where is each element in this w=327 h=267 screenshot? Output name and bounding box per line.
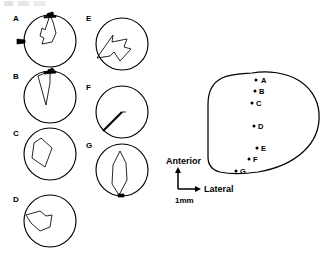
- site-dot-c: [251, 102, 254, 105]
- polar-panel-d-circle: [24, 195, 76, 247]
- polar-panel-g-label: G: [86, 141, 92, 150]
- site-marker-b: B: [254, 87, 266, 96]
- site-label-a: A: [261, 76, 267, 85]
- site-label-c: C: [256, 99, 262, 108]
- polar-panel-a-field-trace: [40, 15, 56, 44]
- polar-panel-b-field-trace: [38, 71, 50, 105]
- site-marker-d: D: [253, 122, 265, 131]
- polar-panel-e: E: [86, 14, 148, 70]
- polar-panel-g-circle: [96, 144, 148, 196]
- orientation-axes: Anterior Lateral 1mm: [166, 156, 234, 205]
- site-dot-d: [253, 125, 256, 128]
- figure-root: A B C: [0, 0, 327, 267]
- polar-panel-a-circle: [24, 15, 76, 67]
- polar-panel-g-bottom-marker: [118, 194, 124, 197]
- site-dot-b: [254, 90, 257, 93]
- polar-panel-b: B: [13, 68, 76, 123]
- site-label-f: F: [253, 155, 258, 164]
- site-marker-f: F: [248, 155, 259, 164]
- site-dot-f: [248, 158, 251, 161]
- polar-panel-f-field-trace: [103, 112, 122, 131]
- polar-panel-g-field-trace: [112, 151, 127, 195]
- site-dot-g: [235, 170, 238, 173]
- polar-panel-c: C: [13, 128, 76, 180]
- site-map: A B C D E F G: [208, 72, 319, 176]
- polar-panel-d-label: D: [13, 195, 19, 204]
- site-label-g: G: [240, 167, 246, 176]
- site-dot-a: [255, 79, 258, 82]
- polar-panel-f: F: [86, 83, 148, 138]
- site-marker-e: E: [256, 144, 267, 153]
- polar-panel-f-label: F: [86, 83, 91, 92]
- polar-panel-a: A: [13, 12, 76, 67]
- anterior-arrowhead-icon: [175, 167, 181, 173]
- polar-panel-c-field-trace: [32, 138, 52, 167]
- site-marker-c: C: [251, 99, 263, 108]
- scale-bar-label: 1mm: [175, 196, 194, 205]
- site-marker-g: G: [235, 167, 247, 176]
- axis-label-anterior: Anterior: [166, 156, 202, 166]
- polar-panel-a-left-marker: [17, 39, 25, 44]
- polar-panel-e-circle: [96, 18, 148, 70]
- polar-panel-b-label: B: [13, 72, 19, 81]
- site-dot-e: [256, 147, 259, 150]
- site-label-d: D: [258, 122, 264, 131]
- site-label-b: B: [259, 87, 265, 96]
- polar-panel-c-label: C: [13, 129, 19, 138]
- polar-panel-e-label: E: [86, 14, 92, 23]
- polar-panel-a-label: A: [13, 14, 19, 23]
- polar-panel-d-field-trace: [26, 211, 52, 231]
- polar-panel-g: G: [86, 141, 148, 197]
- figure-canvas: A B C: [0, 0, 327, 267]
- site-label-e: E: [261, 144, 266, 153]
- polar-panel-e-field-trace: [97, 35, 131, 61]
- polar-panel-d: D: [13, 195, 76, 247]
- axis-label-lateral: Lateral: [204, 184, 234, 194]
- lateral-arrowhead-icon: [195, 186, 201, 192]
- site-marker-a: A: [255, 76, 268, 85]
